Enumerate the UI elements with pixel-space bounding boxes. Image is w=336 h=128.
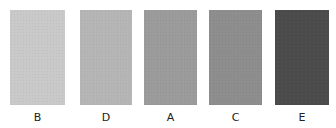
swatch-column-e: E bbox=[275, 10, 329, 105]
swatch-column-c: C bbox=[209, 10, 262, 105]
swatch-column-a: A bbox=[144, 10, 197, 105]
gray-swatch-a bbox=[144, 10, 197, 105]
gray-swatch-e bbox=[275, 10, 329, 105]
swatch-label-a: A bbox=[144, 111, 197, 125]
swatch-label-e: E bbox=[275, 111, 329, 125]
swatch-label-d: D bbox=[80, 111, 132, 125]
gray-swatch-d bbox=[80, 10, 132, 105]
gray-swatch-b bbox=[10, 10, 65, 105]
swatch-column-b: B bbox=[10, 10, 65, 105]
swatch-label-c: C bbox=[209, 111, 262, 125]
swatch-column-d: D bbox=[80, 10, 132, 105]
gray-swatch-c bbox=[209, 10, 262, 105]
swatch-label-b: B bbox=[10, 111, 65, 125]
